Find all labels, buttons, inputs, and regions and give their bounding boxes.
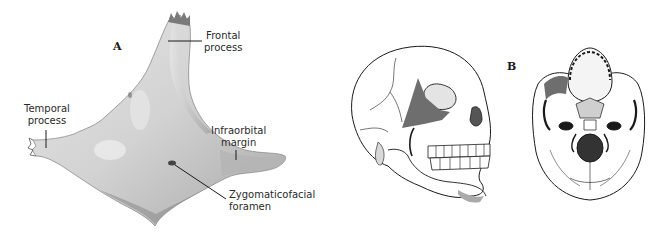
- label-infraorbital-margin: Infraorbital margin: [211, 125, 266, 149]
- foramen-magnum: [577, 134, 603, 162]
- panel-b: B: [300, 0, 668, 241]
- panel-a-letter: A: [113, 40, 122, 53]
- panel-a: A Frontal process Temporal process Infra…: [0, 0, 300, 241]
- skull-anterolateral-view: [352, 46, 491, 202]
- skull-inferior-view: [533, 48, 645, 200]
- label-frontal-process: Frontal process: [204, 30, 242, 54]
- panel-b-letter: B: [507, 60, 516, 73]
- foramen-mark: [168, 161, 176, 166]
- label-temporal-process: Temporal process: [24, 103, 70, 127]
- skull-illustrations: [300, 0, 668, 241]
